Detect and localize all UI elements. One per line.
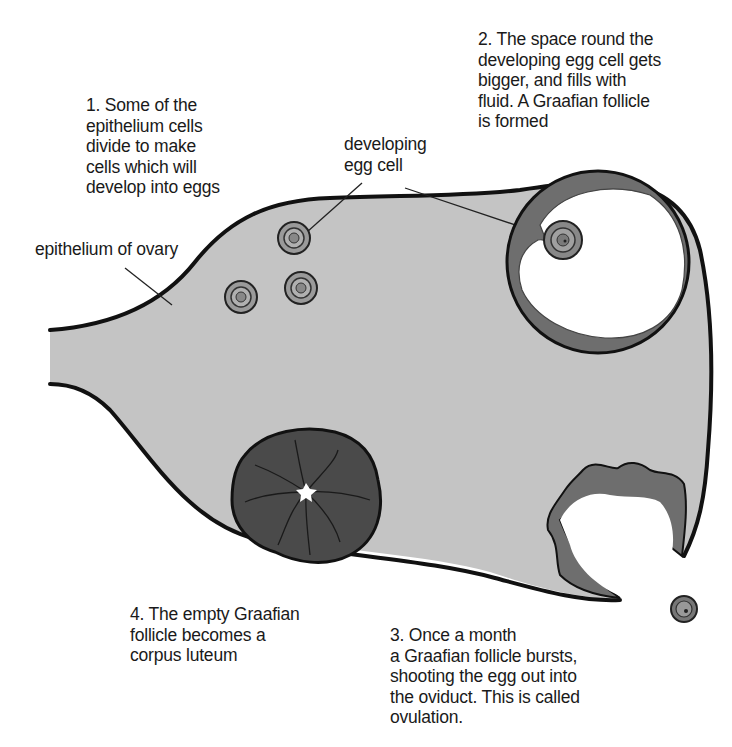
egg-cell-3: [285, 272, 317, 304]
graafian-follicle: [507, 171, 689, 353]
released-egg: [671, 596, 697, 622]
egg-cell-1: [278, 222, 310, 254]
label-step-4: 4. The empty Graafian follicle becomes a…: [130, 604, 300, 666]
label-step-3: 3. Once a month a Graafian follicle burs…: [390, 625, 580, 728]
egg-cell-2: [225, 281, 257, 313]
label-step-2: 2. The space round the developing egg ce…: [478, 29, 661, 132]
label-developing-egg-cell: developing egg cell: [344, 134, 427, 175]
pointer-epithelium: [125, 268, 172, 305]
label-epithelium-of-ovary: epithelium of ovary: [35, 239, 178, 260]
label-step-1: 1. Some of the epithelium cells divide t…: [86, 95, 220, 198]
corpus-luteum: [232, 429, 381, 562]
